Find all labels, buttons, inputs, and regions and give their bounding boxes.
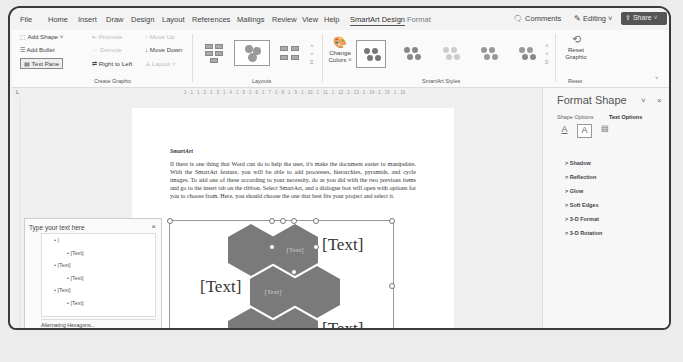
tab-mailings[interactable]: Mailings <box>237 15 265 24</box>
section-shadow[interactable]: > Shadow <box>565 160 591 166</box>
demote-icon: → <box>92 46 100 53</box>
tab-insert[interactable]: Insert <box>78 15 97 24</box>
word-window: File Home Insert Draw Design Layout Refe… <box>8 6 671 330</box>
section-3d-rotation[interactable]: > 3-D Rotation <box>565 230 602 236</box>
tab-smartart-design[interactable]: SmartArt Design <box>350 15 405 26</box>
demote-button[interactable]: → Demote <box>92 46 122 53</box>
layouts-gallery-scroll[interactable]: ˄˅≡ <box>310 42 314 66</box>
right-to-left-button[interactable]: ⇄ Right to Left <box>92 60 132 67</box>
layout-thumbnail-3[interactable] <box>276 40 304 66</box>
text-pane-editor[interactable]: • | • [Text] • [Text] • [Text] • [Text] … <box>41 233 156 317</box>
resize-handle[interactable] <box>389 283 395 289</box>
resize-handle[interactable] <box>167 218 173 224</box>
smartart-style-4[interactable] <box>474 40 504 68</box>
layout-button[interactable]: ♙ Layout ˅ <box>145 60 176 67</box>
layout-name-link[interactable]: Alternating Hexagons... <box>41 319 156 328</box>
reset-graphic-icon: ⟲ <box>561 33 591 46</box>
textbox-icon[interactable]: ▤ <box>597 124 612 138</box>
tab-layout[interactable]: Layout <box>162 15 185 24</box>
list-item[interactable]: • [Text] <box>67 300 84 306</box>
share-button[interactable]: ⇪ Share ˅ <box>621 12 667 25</box>
divider <box>192 34 193 82</box>
tab-help[interactable]: Help <box>324 15 339 24</box>
hexagon-shape[interactable]: [Text] <box>250 266 296 318</box>
tab-references[interactable]: References <box>192 15 230 24</box>
section-soft-edges[interactable]: > Soft Edges <box>565 202 598 208</box>
hexagon-shape[interactable] <box>294 266 340 318</box>
group-layouts: Layouts <box>252 78 271 84</box>
text-pane-title: Type your text here <box>29 224 85 231</box>
text-effects-icon[interactable]: A <box>577 124 592 138</box>
share-icon: ⇪ <box>625 14 633 21</box>
org-chart-icon: ♙ <box>145 60 152 67</box>
doc-paragraph[interactable]: If there is one thing that Word can do t… <box>170 160 416 200</box>
tab-shape-options[interactable]: Shape Options <box>557 114 593 120</box>
promote-button[interactable]: ⇤ Promote <box>92 33 122 40</box>
list-item[interactable]: • [Text] <box>67 250 84 256</box>
styles-gallery-scroll[interactable]: ˄˅≡ <box>545 42 549 66</box>
outer-text-bottom[interactable]: [Text] <box>322 319 363 330</box>
list-item[interactable]: • [Text] <box>67 275 84 281</box>
group-reset: Reset <box>568 78 582 84</box>
smartart-style-5[interactable] <box>512 40 542 68</box>
promote-icon: ⇤ <box>92 33 99 40</box>
layout-thumbnail-1[interactable] <box>200 40 228 66</box>
tab-stop-icon[interactable]: L <box>16 89 19 95</box>
text-fill-icon[interactable]: A <box>557 124 572 138</box>
outer-text-middle[interactable]: [Text] <box>200 277 241 297</box>
move-down-button[interactable]: ↓ Move Down <box>145 46 183 53</box>
editing-button[interactable]: ✎ Editing ˅ <box>574 14 613 23</box>
text-pane-button[interactable]: ▤ Text Pane <box>20 58 63 69</box>
close-icon[interactable]: × <box>657 96 662 105</box>
divider <box>555 34 556 82</box>
shape-handle[interactable] <box>313 218 319 224</box>
smartart-style-3[interactable] <box>436 40 466 68</box>
list-item[interactable]: • [Text] <box>54 262 71 268</box>
pane-options-chevron-icon[interactable]: ˅ <box>641 96 646 105</box>
list-item[interactable]: • | <box>54 237 59 243</box>
tab-view[interactable]: View <box>302 15 318 24</box>
close-icon[interactable]: × <box>151 222 156 231</box>
change-colors-button[interactable]: 🎨 Change Colors ˅ <box>327 36 353 63</box>
shape-handle[interactable] <box>269 244 275 250</box>
add-shape-button[interactable]: ⬚ Add Shape ˅ <box>20 33 63 40</box>
smartart-style-1[interactable] <box>356 40 386 68</box>
smartart-graphic[interactable]: [Text] [Text] [Text] [Text] [Text] [Text… <box>169 220 394 330</box>
tab-draw[interactable]: Draw <box>106 15 124 24</box>
ribbon: ⬚ Add Shape ˅ ☰ Add Bullet ▤ Text Pane ⇤… <box>12 30 669 88</box>
smartart-text-pane: Type your text here × • | • [Text] • [Te… <box>24 218 162 330</box>
shape-handle[interactable] <box>280 218 286 224</box>
comments-button[interactable]: 🗨 Comments <box>513 14 561 23</box>
tab-format[interactable]: Format <box>407 15 431 24</box>
outer-text-top[interactable]: [Text] <box>322 235 363 255</box>
format-shape-pane: Format Shape ˅ × Shape Options Text Opti… <box>542 88 670 330</box>
tab-review[interactable]: Review <box>272 15 297 24</box>
resize-handle[interactable] <box>389 218 395 224</box>
tab-text-options[interactable]: Text Options <box>609 114 642 120</box>
hexagon-shape[interactable] <box>228 224 274 276</box>
group-smartart-styles: SmartArt Styles <box>422 78 460 84</box>
shape-handle[interactable] <box>291 269 297 275</box>
tab-design[interactable]: Design <box>131 15 154 24</box>
reset-graphic-button[interactable]: ⟲ Reset Graphic <box>561 33 591 60</box>
layout-thumbnail-alternating-hexagons[interactable] <box>234 40 270 66</box>
collapse-ribbon-icon[interactable]: ˅ <box>655 74 659 81</box>
list-item[interactable]: • [Text] <box>54 287 71 293</box>
shape-handle[interactable] <box>269 218 275 224</box>
vertical-ruler[interactable] <box>13 98 21 330</box>
section-3d-format[interactable]: > 3-D Format <box>565 216 599 222</box>
add-bullet-button[interactable]: ☰ Add Bullet <box>20 46 55 53</box>
palette-icon: 🎨 <box>327 36 353 49</box>
shape-handle[interactable] <box>313 244 319 250</box>
text-pane-icon: ▤ <box>24 60 32 67</box>
shape-handle[interactable] <box>291 218 297 224</box>
smartart-style-2[interactable] <box>397 40 427 68</box>
tab-home[interactable]: Home <box>48 15 68 24</box>
horizontal-ruler[interactable]: L 1 · 1 · 1 · 2 · 1 · 3 · 1 · 4 · 1 · 5 … <box>12 88 542 98</box>
tab-file[interactable]: File <box>20 15 32 24</box>
swap-icon: ⇄ <box>92 60 99 67</box>
document-page[interactable]: SmartArt If there is one thing that Word… <box>132 108 454 330</box>
section-glow[interactable]: > Glow <box>565 188 583 194</box>
section-reflection[interactable]: > Reflection <box>565 174 596 180</box>
move-up-button[interactable]: ↑ Move Up <box>145 33 175 40</box>
